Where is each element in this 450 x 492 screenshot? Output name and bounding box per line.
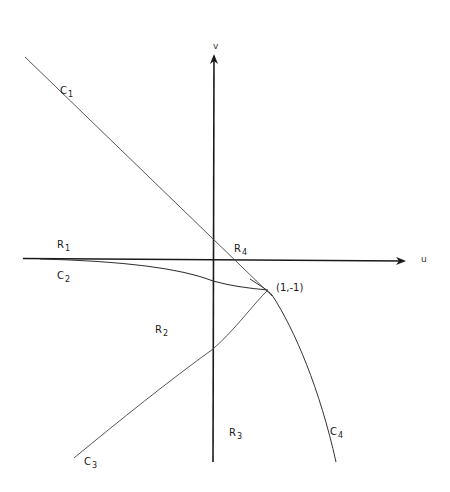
v-axis-label: v: [213, 42, 218, 51]
uv-plane-diagram: v u (1,-1) C1 C2 C3 C4 R1 R2 R3 R4: [0, 0, 450, 492]
curve-label-c1: C1: [60, 86, 73, 99]
curve-c4: [250, 279, 336, 462]
v-axis: [213, 56, 214, 462]
point-label-1-neg1: (1,-1): [276, 283, 303, 293]
curve-label-c4: C4: [330, 427, 343, 440]
region-label-r2: R2: [155, 325, 168, 338]
region-label-r4: R4: [234, 244, 247, 257]
curve-c2: [40, 259, 268, 290]
curve-label-c3: C3: [84, 457, 97, 470]
u-axis-label: u: [421, 255, 427, 264]
region-label-r3: R3: [229, 428, 242, 441]
region-label-r1: R1: [57, 240, 70, 253]
curve-label-c2: C2: [57, 271, 70, 284]
